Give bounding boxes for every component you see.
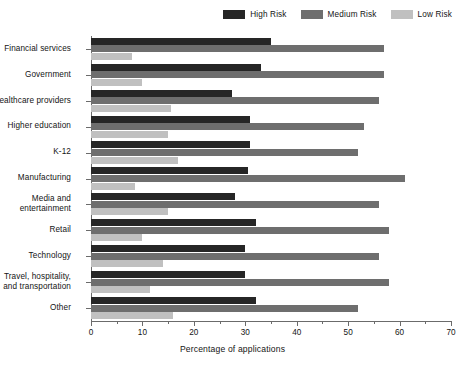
x-axis-tick-major xyxy=(142,321,143,326)
x-axis-tick-label: 0 xyxy=(89,328,94,337)
x-axis-tick-major xyxy=(91,321,92,326)
bar-high-risk xyxy=(91,219,256,226)
y-axis-tick xyxy=(86,204,91,205)
x-axis-tick-label: 40 xyxy=(292,328,301,337)
x-axis-tick-major xyxy=(451,321,452,326)
bar-medium-risk xyxy=(91,97,379,104)
bar-high-risk xyxy=(91,245,245,252)
legend-swatch-medium-risk xyxy=(301,10,323,19)
x-axis-tick-minor xyxy=(220,321,221,324)
bar-low-risk xyxy=(91,183,135,190)
x-axis-tick-minor xyxy=(168,321,169,324)
bar-group xyxy=(91,219,451,241)
bar-low-risk xyxy=(91,131,168,138)
bar-low-risk xyxy=(91,157,178,164)
x-axis-tick-major xyxy=(194,321,195,326)
x-axis-tick-major xyxy=(297,321,298,326)
legend-swatch-low-risk xyxy=(391,10,413,19)
bar-low-risk xyxy=(91,286,150,293)
legend-label-high-risk: High Risk xyxy=(250,10,286,19)
bar-group xyxy=(91,245,451,267)
bar-group xyxy=(91,64,451,86)
x-axis-tick-major xyxy=(245,321,246,326)
x-axis-tick-major xyxy=(400,321,401,326)
bar-low-risk xyxy=(91,260,163,267)
y-axis-tick xyxy=(86,49,91,50)
bar-medium-risk xyxy=(91,279,389,286)
bar-medium-risk xyxy=(91,227,389,234)
bar-medium-risk xyxy=(91,123,364,130)
bar-group xyxy=(91,167,451,189)
x-axis-tick-major xyxy=(348,321,349,326)
bar-low-risk xyxy=(91,312,173,319)
bar-high-risk xyxy=(91,271,245,278)
bar-group xyxy=(91,297,451,319)
x-axis-title: Percentage of applications xyxy=(0,344,465,354)
bar-high-risk xyxy=(91,116,250,123)
y-axis-label: K-12 xyxy=(0,147,71,157)
y-axis-tick xyxy=(86,127,91,128)
bar-low-risk xyxy=(91,208,168,215)
x-axis-tick-minor xyxy=(374,321,375,324)
plot-area: Financial servicesGovernmentHealthcare p… xyxy=(91,36,451,321)
y-axis-label: Retail xyxy=(0,225,71,235)
bar-medium-risk xyxy=(91,45,384,52)
y-axis-tick xyxy=(86,230,91,231)
y-axis-tick xyxy=(86,308,91,309)
bar-high-risk xyxy=(91,38,271,45)
bar-low-risk xyxy=(91,53,132,60)
bar-chart: High Risk Medium Risk Low Risk Financial… xyxy=(0,0,465,368)
bar-medium-risk xyxy=(91,305,358,312)
x-axis-tick-label: 50 xyxy=(344,328,353,337)
bar-high-risk xyxy=(91,193,235,200)
y-axis-tick xyxy=(86,153,91,154)
legend-label-medium-risk: Medium Risk xyxy=(328,10,377,19)
y-axis-label: Healthcare providers xyxy=(0,96,71,106)
y-axis-label: Higher education xyxy=(0,121,71,131)
x-axis-tick-label: 30 xyxy=(241,328,250,337)
bar-low-risk xyxy=(91,234,142,241)
bar-medium-risk xyxy=(91,71,384,78)
bar-group xyxy=(91,116,451,138)
bar-high-risk xyxy=(91,64,261,71)
bar-low-risk xyxy=(91,105,171,112)
legend-item-high-risk: High Risk xyxy=(223,10,286,19)
bar-high-risk xyxy=(91,297,256,304)
x-axis-tick-label: 10 xyxy=(138,328,147,337)
y-axis-label: Government xyxy=(0,70,71,80)
y-axis-label: Travel, hospitality, and transportation xyxy=(0,272,71,291)
legend-item-low-risk: Low Risk xyxy=(391,10,452,19)
bar-high-risk xyxy=(91,90,232,97)
x-axis-tick-label: 70 xyxy=(446,328,455,337)
x-axis-tick-minor xyxy=(322,321,323,324)
bar-high-risk xyxy=(91,167,248,174)
y-axis-tick xyxy=(86,101,91,102)
x-axis-tick-label: 60 xyxy=(395,328,404,337)
bar-medium-risk xyxy=(91,201,379,208)
y-axis-label: Financial services xyxy=(0,44,71,54)
x-axis-tick-minor xyxy=(271,321,272,324)
x-axis-tick-minor xyxy=(425,321,426,324)
x-axis-tick-label: 20 xyxy=(189,328,198,337)
y-axis-label: Technology xyxy=(0,251,71,261)
bar-group xyxy=(91,193,451,215)
bar-high-risk xyxy=(91,141,250,148)
y-axis-tick xyxy=(86,282,91,283)
y-axis-tick xyxy=(86,256,91,257)
bar-group xyxy=(91,38,451,60)
x-axis-tick-minor xyxy=(117,321,118,324)
bar-medium-risk xyxy=(91,175,405,182)
legend-item-medium-risk: Medium Risk xyxy=(301,10,377,19)
bar-medium-risk xyxy=(91,253,379,260)
y-axis-tick xyxy=(86,75,91,76)
chart-legend: High Risk Medium Risk Low Risk xyxy=(223,10,452,19)
y-axis-tick xyxy=(86,179,91,180)
bar-group xyxy=(91,271,451,293)
bar-group xyxy=(91,141,451,163)
legend-swatch-high-risk xyxy=(223,10,245,19)
bar-group xyxy=(91,90,451,112)
y-axis-label: Manufacturing xyxy=(0,173,71,183)
y-axis-label: Media and entertainment xyxy=(0,194,71,213)
bar-low-risk xyxy=(91,79,142,86)
y-axis-label: Other xyxy=(0,303,71,313)
